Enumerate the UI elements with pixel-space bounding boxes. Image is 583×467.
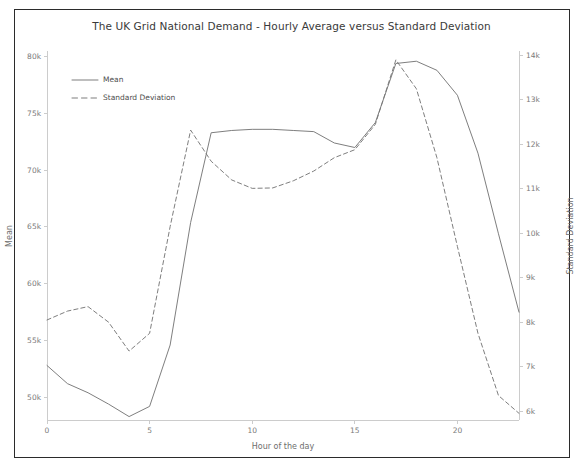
legend-sample-lines bbox=[72, 80, 98, 98]
legend-label-std-deviation: Standard Deviation bbox=[103, 93, 175, 102]
y-axis-left-tick-label: 55k bbox=[5, 336, 41, 345]
y-axis-left-tick-label: 75k bbox=[5, 109, 41, 118]
y-axis-right-tick-label: 9k bbox=[526, 273, 556, 282]
series-line-mean bbox=[47, 61, 519, 416]
axis-spines bbox=[47, 51, 519, 420]
x-axis-tick-label: 10 bbox=[237, 426, 267, 435]
chart-plot-area bbox=[0, 0, 583, 467]
y-axis-left-tick-label: 80k bbox=[5, 52, 41, 61]
x-axis-tick-label: 5 bbox=[135, 426, 165, 435]
series-line-std-deviation bbox=[47, 60, 519, 413]
y-axis-right-tick-label: 14k bbox=[526, 51, 556, 60]
y-axis-left-tick-label: 60k bbox=[5, 279, 41, 288]
y-axis-left-tick-label: 70k bbox=[5, 166, 41, 175]
y-axis-right-tick-label: 7k bbox=[526, 362, 556, 371]
tick-marks bbox=[44, 55, 523, 423]
x-axis-tick-label: 20 bbox=[442, 426, 472, 435]
series-lines bbox=[47, 60, 519, 417]
x-axis-tick-label: 15 bbox=[340, 426, 370, 435]
y-axis-left-title: Mean bbox=[5, 225, 14, 247]
x-axis-title: Hour of the day bbox=[0, 442, 566, 451]
y-axis-right-tick-label: 11k bbox=[526, 184, 556, 193]
y-axis-right-tick-label: 12k bbox=[526, 140, 556, 149]
legend-label-mean: Mean bbox=[103, 75, 123, 84]
y-axis-right-tick-label: 10k bbox=[526, 229, 556, 238]
y-axis-right-tick-label: 6k bbox=[526, 407, 556, 416]
x-axis-tick-label: 0 bbox=[32, 426, 62, 435]
y-axis-right-title: Standard Deviation bbox=[566, 197, 575, 274]
y-axis-right-tick-label: 13k bbox=[526, 95, 556, 104]
y-axis-left-tick-label: 50k bbox=[5, 393, 41, 402]
y-axis-right-tick-label: 8k bbox=[526, 318, 556, 327]
chart-figure: The UK Grid National Demand - Hourly Ave… bbox=[0, 0, 583, 467]
